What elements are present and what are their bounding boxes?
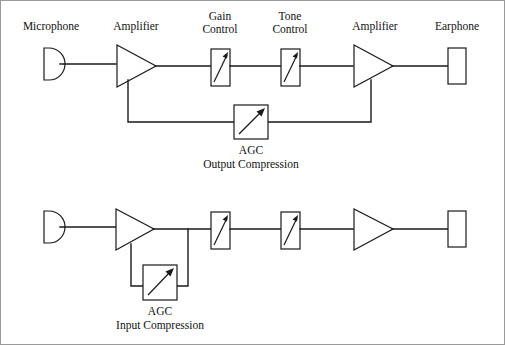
caption-agc-top-line1: AGC (239, 144, 264, 156)
label-gain-control-line2: Control (202, 23, 237, 35)
caption-agc-bottom-line2: Input Compression (116, 319, 204, 332)
label-amplifier-1: Amplifier (113, 20, 159, 33)
wire-agc-to-signal-bottom (177, 229, 188, 286)
earphone-icon-bottom (448, 211, 466, 247)
page-border (1, 1, 505, 345)
label-earphone: Earphone (435, 20, 479, 33)
hearing-aid-block-diagram: Microphone Amplifier Gain Control Tone C… (0, 0, 505, 345)
amplifier-2-icon-bottom (354, 209, 393, 250)
earphone-icon (448, 48, 466, 84)
label-tone-control-line2: Control (272, 23, 307, 35)
label-microphone: Microphone (23, 20, 79, 33)
label-amplifier-2: Amplifier (352, 20, 398, 33)
wire-amp1-to-agc-bottom (131, 244, 143, 286)
amplifier-1-icon (117, 45, 156, 87)
amplifier-1-icon-bottom (116, 209, 154, 250)
label-gain-control-line1: Gain (209, 10, 232, 22)
diagram-output-compression: Microphone Amplifier Gain Control Tone C… (23, 10, 479, 171)
caption-agc-bottom-line1: AGC (148, 305, 173, 317)
diagram-input-compression: AGC Input Compression (44, 209, 466, 332)
caption-agc-top-line2: Output Compression (203, 158, 299, 171)
label-tone-control-line1: Tone (279, 10, 302, 22)
diagram-canvas: Microphone Amplifier Gain Control Tone C… (0, 0, 505, 345)
amplifier-2-icon (354, 45, 393, 87)
